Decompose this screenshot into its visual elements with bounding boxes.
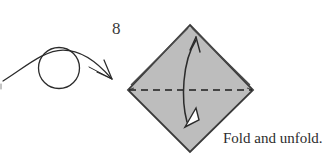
origami-diagram-figure: 8 Fold and unfold. [0, 0, 334, 156]
step-caption: Fold and unfold. [223, 131, 323, 146]
step-number: 8 [112, 20, 121, 37]
